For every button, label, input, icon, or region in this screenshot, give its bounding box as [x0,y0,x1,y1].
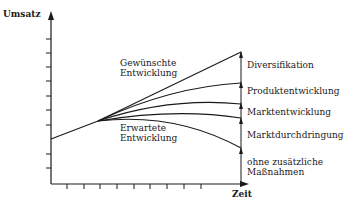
x-axis-ticks [67,184,201,189]
expected-development-label-2: Entwicklung [120,133,178,143]
y-axis-ticks [46,39,51,168]
y-axis [46,11,54,184]
desired-development-label-2: Entwicklung [120,68,178,78]
gap-analysis-diagram: Umsatz Zeit Gewünschte Entwicklung Erwar… [0,0,346,203]
x-axis-label: Zeit [232,189,253,199]
y-axis-label: Umsatz [3,9,41,19]
gap-label-no-measures-2: Maßnahmen [247,167,304,177]
gap-label-product-development: Produktentwicklung [247,86,340,96]
expected-development-label-1: Erwartete [120,123,166,133]
gap-label-diversification: Diversifikation [247,60,314,70]
gap-label-market-development: Marktentwicklung [247,107,331,117]
y-axis-arrow-icon [48,11,54,20]
base-trend-line [51,121,98,139]
x-axis [51,181,249,189]
desired-development-label-1: Gewünschte [120,58,176,68]
gap-label-market-penetration: Marktdurchdringung [247,130,344,140]
gap-label-no-measures-1: ohne zusätzliche [247,157,323,167]
